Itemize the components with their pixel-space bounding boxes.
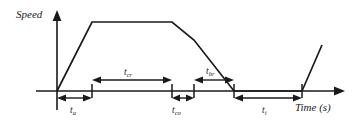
arrowhead-right [225, 76, 234, 83]
y-axis-arrowhead [53, 10, 62, 21]
arrowhead-left [172, 95, 180, 102]
segment-label-t-a: ta [70, 105, 77, 116]
segment-label-t-i: ti [262, 105, 267, 116]
segment-sub-t-co: co [175, 109, 182, 116]
speed-time-diagram: Speed Time (s) ta tcr [0, 0, 355, 124]
arrowhead-left [234, 94, 243, 101]
segment-dimension-t-i: ti [234, 94, 302, 116]
segment-dimension-t-br: tbr [194, 66, 234, 84]
segment-dimension-t-cr: tcr [92, 67, 172, 84]
segment-label-t-co: tco [172, 105, 182, 116]
segment-label-t-cr: tcr [124, 67, 133, 78]
arrowhead-left [194, 76, 203, 83]
y-axis-label: Speed [16, 8, 43, 20]
segment-sub-t-br: br [209, 70, 215, 77]
segment-sub-t-cr: cr [127, 71, 133, 78]
axes-group [36, 10, 345, 110]
arrowhead-left [57, 94, 66, 101]
arrowhead-right [186, 95, 194, 102]
arrowhead-right [83, 94, 92, 101]
segment-dimension-t-a: ta [57, 94, 92, 116]
x-axis-label: Time (s) [295, 101, 331, 114]
segment-sub-t-a: a [73, 109, 77, 116]
diagram-canvas: Speed Time (s) ta tcr [0, 0, 355, 124]
x-axis-arrowhead [334, 87, 345, 96]
segment-sub-t-i: i [265, 109, 267, 116]
segment-dimension-t-co: tco [172, 95, 194, 117]
segment-label-t-br: tbr [206, 66, 215, 77]
arrowhead-left [92, 76, 101, 83]
arrowhead-right [163, 76, 172, 83]
